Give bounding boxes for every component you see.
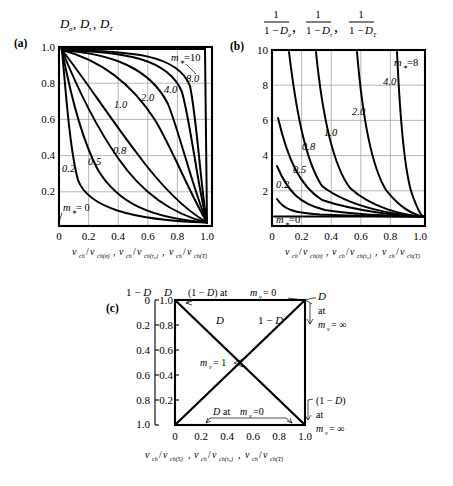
panel-b-yticks: 10 8 6 4 2 bbox=[257, 44, 269, 197]
panel-c-ytick-l-0: 0 bbox=[145, 294, 151, 306]
svg-text:1 −: 1 − bbox=[349, 24, 363, 36]
figure-svg: D σ , D τ , D T (a) bbox=[0, 0, 453, 486]
svg-text:v: v bbox=[209, 364, 212, 370]
panel-a-label-8-0: 8.0 bbox=[186, 73, 200, 84]
svg-text:,: , bbox=[162, 246, 165, 257]
panel-c-ytick-l-0-4: 0.4 bbox=[136, 344, 150, 356]
svg-text:ν: ν bbox=[145, 449, 150, 460]
panel-c-id: (c) bbox=[106, 302, 119, 315]
panel-b-ytick-6: 6 bbox=[263, 114, 269, 126]
svg-text:D: D bbox=[321, 24, 330, 36]
svg-text:m: m bbox=[250, 287, 257, 298]
svg-text:m: m bbox=[276, 214, 284, 225]
panel-a-id: (a) bbox=[14, 37, 28, 50]
svg-text:1: 1 bbox=[358, 8, 364, 20]
svg-text:at: at bbox=[318, 305, 325, 316]
panel-a-label-0-5: 0.5 bbox=[88, 156, 101, 167]
panel-c-ann-bottom: D at m v =0 bbox=[206, 406, 292, 423]
svg-text:ν: ν bbox=[263, 449, 268, 460]
panel-a-xtick-0: 0 bbox=[56, 230, 62, 242]
panel-b-label-2-0: 2.0 bbox=[352, 106, 366, 117]
panel-b-xtick-0-8: 0.8 bbox=[384, 230, 398, 242]
svg-text:D: D bbox=[317, 290, 326, 302]
panel-a: D σ , D τ , D T (a) bbox=[14, 16, 214, 260]
panel-b-label-4-0: 4.0 bbox=[383, 76, 397, 87]
svg-text:/: / bbox=[299, 246, 302, 257]
panel-c-ytick-r-0-6: 0.6 bbox=[159, 344, 173, 356]
panel-c-ytick-l-0-2: 0.2 bbox=[136, 319, 150, 331]
panel-a-label-m0: m ∗ = 0 bbox=[59, 202, 90, 222]
panel-c-yticks-right: 1.0 0.8 0.6 0.4 0.2 bbox=[159, 294, 173, 406]
svg-text:D: D bbox=[364, 24, 373, 36]
svg-text:(1 − D) at: (1 − D) at bbox=[188, 287, 227, 299]
svg-text:1: 1 bbox=[315, 8, 321, 20]
svg-text:m: m bbox=[316, 423, 323, 434]
panel-b-xtick-0-2: 0.2 bbox=[295, 230, 309, 242]
panel-a-xticks: 0 0.2 0.4 0.6 0.8 1.0 bbox=[56, 230, 214, 242]
panel-c-ann-top-right: D at m v = ∞ bbox=[288, 290, 346, 332]
panel-c-label-D: D bbox=[215, 314, 224, 326]
panel-a-xtick-0-2: 0.2 bbox=[82, 230, 96, 242]
panel-b-ytick-8: 8 bbox=[263, 79, 269, 91]
panel-a-label-m10: m ∗ =10 bbox=[171, 52, 200, 74]
svg-text:ch(τ₈): ch(τ₈) bbox=[144, 253, 158, 260]
panel-a-xlabel: νch / νch(σ) , νch / νch(τ₈) , νch / νch… bbox=[72, 246, 207, 260]
panel-c-ytick-l-0-8: 0.8 bbox=[136, 394, 150, 406]
svg-text:ch: ch bbox=[79, 253, 85, 259]
svg-text:ν: ν bbox=[332, 246, 337, 257]
svg-text:,: , bbox=[73, 16, 76, 31]
svg-text:v: v bbox=[327, 326, 330, 332]
panel-c-xtick-1-0: 1.0 bbox=[298, 430, 312, 442]
panel-c-ytick-r-0-2: 0.2 bbox=[159, 394, 173, 406]
panel-a-label-0-2: 0.2 bbox=[62, 163, 76, 174]
svg-text:/: / bbox=[183, 246, 186, 257]
panel-b-ytick-4: 4 bbox=[263, 149, 269, 161]
svg-text:/: / bbox=[208, 449, 211, 460]
svg-text:m: m bbox=[200, 357, 207, 368]
svg-text:ch(T): ch(T) bbox=[270, 456, 283, 463]
svg-text:ch(T): ch(T) bbox=[194, 253, 207, 260]
svg-text:m: m bbox=[240, 406, 247, 417]
svg-text:D: D bbox=[212, 406, 221, 417]
svg-text:= 0: = 0 bbox=[263, 287, 276, 298]
panel-c-ytick-r-0-8: 0.8 bbox=[159, 319, 173, 331]
panel-c-ytick-l-1-0: 1.0 bbox=[136, 418, 150, 430]
svg-text:ν: ν bbox=[187, 246, 192, 257]
svg-text:=0: =0 bbox=[253, 406, 264, 417]
svg-text:D: D bbox=[279, 24, 288, 36]
svg-text:/: / bbox=[396, 246, 399, 257]
svg-text:τ: τ bbox=[89, 25, 92, 33]
panel-b-ytitle: 1 1 − D σ , 1 1 − D τ , 1 1 − D T bbox=[264, 8, 377, 38]
svg-text:T: T bbox=[109, 25, 114, 33]
panel-b-xtick-0-6: 0.6 bbox=[354, 230, 368, 242]
panel-a-label-1-0: 1.0 bbox=[114, 99, 128, 110]
svg-text:,: , bbox=[238, 449, 241, 460]
svg-text:ch(σ): ch(σ) bbox=[310, 253, 323, 260]
svg-text:ν: ν bbox=[350, 246, 355, 257]
panel-a-yticks: 1.0 0.8 0.6 0.4 0.2 bbox=[41, 41, 55, 197]
svg-text:= ∞: = ∞ bbox=[331, 319, 346, 330]
panel-a-label-0-8: 0.8 bbox=[113, 145, 127, 156]
svg-text:m: m bbox=[394, 57, 402, 68]
panel-a-label-4-0: 4.0 bbox=[164, 84, 178, 95]
svg-text:(1 − D): (1 − D) bbox=[316, 395, 346, 407]
svg-text:=0: =0 bbox=[289, 214, 300, 225]
panel-b-xticks: 0 0.2 0.4 0.6 0.8 1.0 bbox=[269, 230, 427, 242]
svg-text:ch: ch bbox=[252, 456, 258, 462]
panel-c-label-1mD: 1 − D bbox=[258, 314, 283, 326]
panel-b-ytick-2: 2 bbox=[263, 185, 269, 197]
panel-a-label-2-0: 2.0 bbox=[141, 92, 155, 103]
svg-text:at: at bbox=[223, 406, 230, 417]
svg-text:1 −: 1 − bbox=[306, 24, 320, 36]
svg-text:/: / bbox=[133, 246, 136, 257]
svg-text:ch: ch bbox=[389, 253, 395, 259]
svg-text:v: v bbox=[259, 294, 262, 300]
figure-root: D σ , D τ , D T (a) bbox=[0, 0, 453, 486]
svg-text:ν: ν bbox=[212, 449, 217, 460]
panel-a-xtick-0-4: 0.4 bbox=[111, 230, 125, 242]
svg-text:= 0: = 0 bbox=[76, 202, 90, 213]
panel-a-ytitle: D σ , D τ , D T bbox=[59, 16, 114, 33]
svg-text:T: T bbox=[373, 32, 377, 38]
svg-text:ν: ν bbox=[194, 449, 199, 460]
svg-text:= 1: = 1 bbox=[213, 357, 226, 368]
